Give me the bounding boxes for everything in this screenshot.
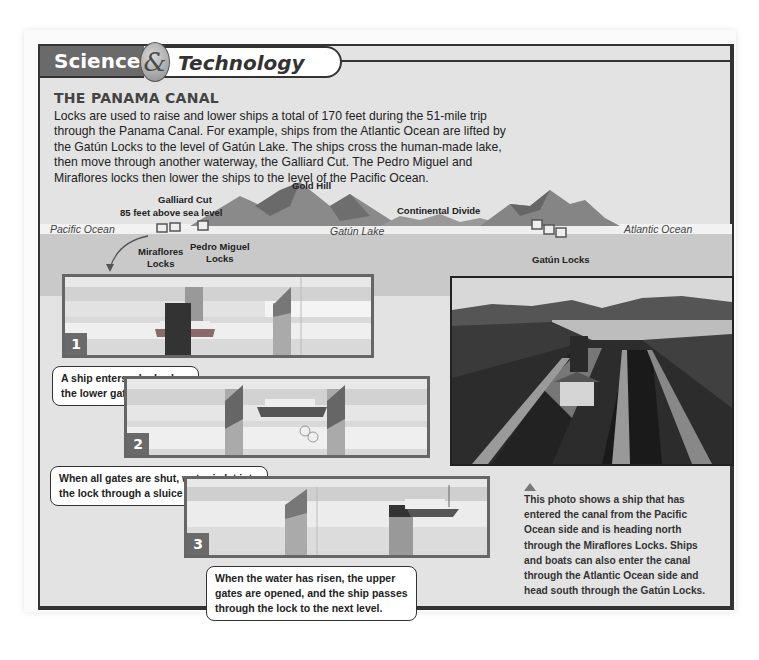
pedro-miguel-locks-label: Pedro Miguel Locks xyxy=(190,241,250,265)
galliard-cut-label: Galliard Cut xyxy=(158,194,212,206)
step-3-caption-line1: When the water has risen, the upper xyxy=(215,571,408,586)
lock-step-3-panel: 3 xyxy=(184,476,490,558)
step-3-caption-line2: gates are opened, and the ship passes xyxy=(215,586,408,601)
pedro-miguel-label-line2: Locks xyxy=(190,253,250,265)
science-label: Science xyxy=(54,49,140,73)
step-number-1: 1 xyxy=(65,333,87,355)
feature-box: Science & Technology THE PANAMA CANAL Lo… xyxy=(38,44,734,610)
header-rule xyxy=(340,60,730,62)
gold-hill-label: Gold Hill xyxy=(292,180,331,192)
science-tab: Science xyxy=(40,46,144,78)
gatun-lake-label: Gatún Lake xyxy=(330,225,384,237)
photo-caption: This photo shows a ship that has entered… xyxy=(524,483,714,598)
pedro-miguel-label-line1: Pedro Miguel xyxy=(190,241,250,253)
step-number-2: 2 xyxy=(127,433,149,455)
ampersand-icon: & xyxy=(140,42,170,82)
lock-step-3-graphic xyxy=(187,479,487,555)
miraflores-label-line1: Miraflores xyxy=(138,246,183,258)
lock-step-2-graphic xyxy=(127,379,427,455)
technology-tab: Technology xyxy=(158,46,342,78)
galliard-elevation-label: 85 feet above sea level xyxy=(120,207,222,219)
article-body: Locks are used to raise and lower ships … xyxy=(54,109,524,186)
pacific-ocean-label: Pacific Ocean xyxy=(50,223,115,235)
miraflores-locks-label: Miraflores Locks xyxy=(138,246,183,270)
technology-label: Technology xyxy=(178,51,305,75)
step-number-3: 3 xyxy=(187,533,209,555)
lock-step-1-panel: 1 xyxy=(62,274,374,358)
continental-divide-label: Continental Divide xyxy=(397,205,480,217)
step-3-caption-line3: through the lock to the next level. xyxy=(215,601,408,616)
article-title: THE PANAMA CANAL xyxy=(54,90,219,106)
miraflores-locks-photo xyxy=(450,276,734,466)
lock-step-2-panel: 2 xyxy=(124,376,430,458)
atlantic-ocean-label: Atlantic Ocean xyxy=(624,223,692,235)
gatun-locks-label: Gatún Locks xyxy=(532,254,590,266)
caption-pointer-icon xyxy=(524,483,536,491)
miraflores-label-line2: Locks xyxy=(138,258,183,270)
locks-photo-image xyxy=(452,278,732,464)
lock-step-1-graphic xyxy=(65,277,371,355)
step-3-callout: When the water has risen, the upper gate… xyxy=(206,566,417,621)
photo-caption-text: This photo shows a ship that has entered… xyxy=(524,492,714,598)
feature-header: Science & Technology xyxy=(40,46,730,78)
